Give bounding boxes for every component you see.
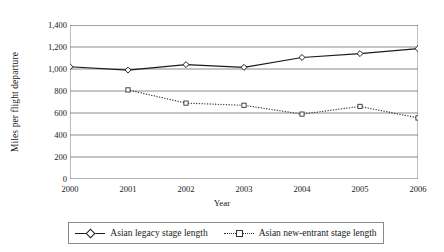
y-tick-label: 200 <box>54 152 67 162</box>
y-axis-tick-labels: 02004006008001,0001,2001,400 <box>22 0 67 252</box>
y-axis-title-label: Miles per flight departure <box>10 52 20 152</box>
x-tick-label: 2000 <box>62 184 79 194</box>
data-point-marker <box>125 67 131 73</box>
legend-label-new-entrant: Asian new-entrant stage length <box>259 228 377 238</box>
y-axis-title: Miles per flight departure <box>8 22 22 182</box>
x-axis-title: Year <box>0 198 444 208</box>
x-tick-label: 2003 <box>236 184 253 194</box>
series-line-1 <box>128 90 418 118</box>
y-tick-label: 1,000 <box>48 64 67 74</box>
x-axis-tick-labels: 2000200120022003200420052006 <box>0 184 444 198</box>
x-tick-label: 2004 <box>294 184 311 194</box>
legend-key-dotted-square-icon <box>224 228 254 238</box>
plot-svg <box>70 25 418 179</box>
y-tick-label: 1,400 <box>48 20 67 30</box>
x-tick-label: 2002 <box>178 184 195 194</box>
legend-label-legacy: Asian legacy stage length <box>110 228 207 238</box>
data-point-marker <box>358 104 362 108</box>
x-tick-label: 2005 <box>352 184 369 194</box>
data-point-marker <box>242 103 246 107</box>
data-point-marker <box>183 62 189 68</box>
data-point-marker <box>299 54 305 60</box>
chart-figure: Miles per flight departure 0200400600800… <box>0 0 444 252</box>
data-point-marker <box>300 112 304 116</box>
y-tick-label: 400 <box>54 130 67 140</box>
legend-item-new-entrant: Asian new-entrant stage length <box>224 228 377 238</box>
y-tick-label: 0 <box>63 174 67 184</box>
y-tick-label: 800 <box>54 86 67 96</box>
data-point-marker <box>415 46 418 52</box>
legend-item-legacy: Asian legacy stage length <box>75 228 207 238</box>
legend-key-solid-diamond-icon <box>75 228 105 238</box>
x-tick-label: 2006 <box>410 184 427 194</box>
y-tick-label: 600 <box>54 108 67 118</box>
data-point-marker <box>416 116 418 120</box>
data-point-marker <box>357 51 363 57</box>
x-tick-label: 2001 <box>120 184 137 194</box>
chart-legend: Asian legacy stage length Asian new-entr… <box>68 222 384 244</box>
data-point-marker <box>126 88 130 92</box>
y-tick-label: 1,200 <box>48 42 67 52</box>
plot-area <box>70 25 418 179</box>
data-point-marker <box>241 64 247 70</box>
data-point-marker <box>184 101 188 105</box>
